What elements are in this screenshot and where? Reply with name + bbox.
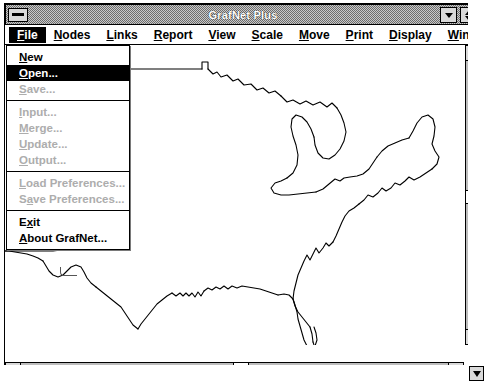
minimize-arrow-icon (445, 13, 453, 18)
file-menu-item-save-preferences: Save Preferences... (7, 191, 129, 207)
menu-item-print[interactable]: Print (338, 27, 381, 43)
minimize-button[interactable] (440, 7, 457, 23)
file-menu-separator (7, 171, 129, 172)
file-menu-item-output: Output... (7, 152, 129, 168)
resize-corner-button[interactable] (469, 366, 484, 381)
file-menu-dropdown[interactable]: NewOpen...Save...Input...Merge...Update.… (6, 45, 130, 250)
outer-right-strip (468, 3, 486, 365)
window-title: GrafNet Plus (6, 9, 480, 21)
title-bar[interactable]: GrafNet Plus (5, 4, 481, 25)
menu-item-nodes[interactable]: Nodes (46, 27, 99, 43)
menu-item-display[interactable]: Display (381, 27, 440, 43)
menu-item-scale[interactable]: Scale (244, 27, 291, 43)
resize-down-arrow-icon (473, 371, 481, 377)
menu-item-report[interactable]: Report (146, 27, 201, 43)
file-menu-item-new[interactable]: New (7, 49, 129, 65)
map-coastline-stub (60, 267, 77, 276)
file-menu-item-update: Update... (7, 136, 129, 152)
file-menu-item-save: Save... (7, 81, 129, 97)
application-window: GrafNet Plus FileNodesLinksReportViewSca… (0, 0, 486, 383)
file-menu-item-input: Input... (7, 104, 129, 120)
file-menu-separator (7, 100, 129, 101)
menu-item-view[interactable]: View (200, 27, 243, 43)
menu-item-file[interactable]: File (9, 27, 46, 43)
file-menu-item-exit[interactable]: Exit (7, 214, 129, 230)
file-menu-item-load-preferences: Load Preferences... (7, 175, 129, 191)
menu-bar[interactable]: FileNodesLinksReportViewScaleMovePrintDi… (5, 26, 481, 45)
file-menu-item-open[interactable]: Open... (7, 65, 129, 81)
menu-item-move[interactable]: Move (291, 27, 338, 43)
file-menu-item-about-grafnet[interactable]: About GrafNet... (7, 230, 129, 246)
menu-item-links[interactable]: Links (98, 27, 145, 43)
file-menu-separator (7, 210, 129, 211)
file-menu-item-merge: Merge... (7, 120, 129, 136)
outer-bottom-strip (0, 365, 486, 383)
